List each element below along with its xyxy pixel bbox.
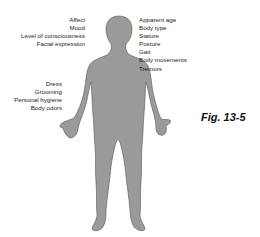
body-diagram: Affect Mood Level of consciousness Facia…: [0, 0, 260, 237]
label-stature: Stature: [139, 32, 187, 40]
label-body-odors: Body odors: [14, 104, 62, 112]
label-facial-expression: Facial expression: [21, 40, 85, 48]
label-dress: Dress: [14, 80, 62, 88]
label-apparent-age: Apparent age: [139, 16, 187, 24]
label-affect: Affect: [21, 16, 85, 24]
label-body-movements: Body movements: [139, 56, 187, 64]
label-grooming: Grooming: [14, 88, 62, 96]
label-posture: Posture: [139, 40, 187, 48]
label-mood: Mood: [21, 24, 85, 32]
label-tremors: Tremors: [139, 65, 187, 73]
figure-caption: Fig. 13-5: [201, 111, 246, 123]
label-gait: Gait: [139, 48, 187, 56]
label-body-type: Body type: [139, 24, 187, 32]
appearance-observations-list: Dress Grooming Personal hygiene Body odo…: [14, 80, 62, 112]
body-observations-list: Apparent age Body type Stature Posture G…: [139, 16, 187, 73]
head-observations-list: Affect Mood Level of consciousness Facia…: [21, 16, 85, 48]
label-personal-hygiene: Personal hygiene: [14, 96, 62, 104]
label-level-of-consciousness: Level of consciousness: [21, 32, 85, 40]
